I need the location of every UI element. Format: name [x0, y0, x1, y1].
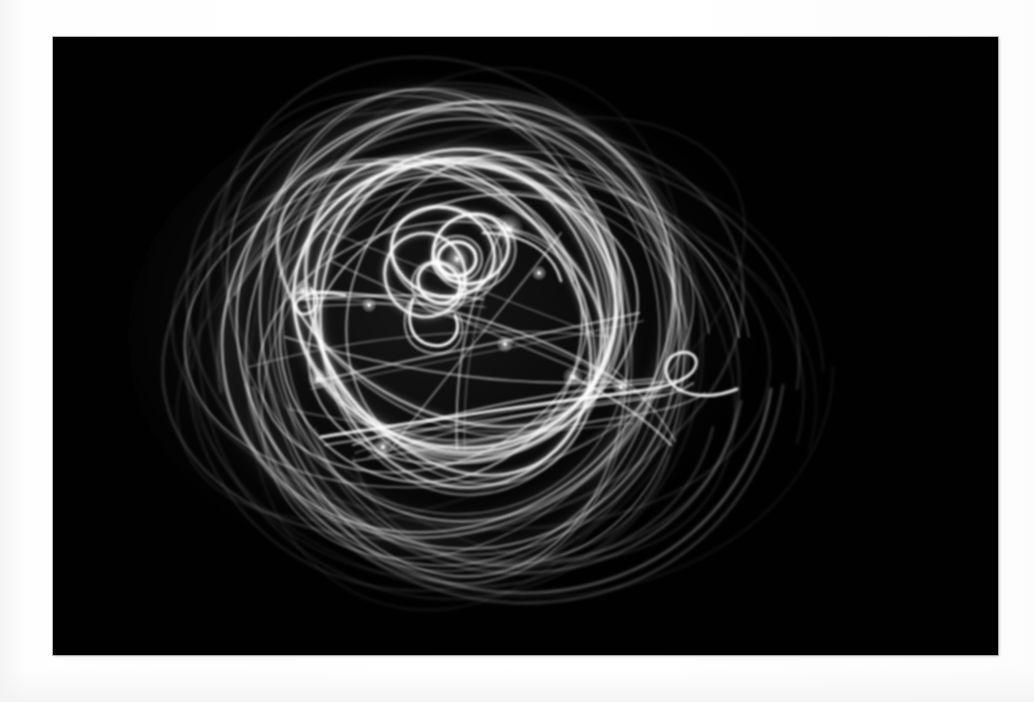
light-trail-artwork: [53, 37, 998, 655]
paper-bottom-shadow: [0, 668, 1034, 702]
photo-page: [0, 0, 1034, 702]
photograph-print: [53, 37, 998, 655]
